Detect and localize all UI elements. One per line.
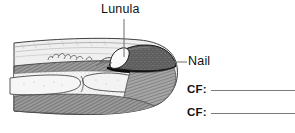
blank-answer-line-cf-2[interactable] <box>211 113 295 114</box>
blank-answer-line-cf-1[interactable] <box>211 90 295 91</box>
blank-row-cf-1: CF: <box>187 83 295 95</box>
figure-page: Lunula Nail CF: CF: <box>0 0 295 133</box>
label-lunula: Lunula <box>101 3 140 16</box>
label-nail: Nail <box>188 55 210 68</box>
blank-row-cf-2: CF: <box>187 106 295 118</box>
blank-label-cf-1: CF: <box>187 83 207 95</box>
blank-label-cf-2: CF: <box>187 106 207 118</box>
